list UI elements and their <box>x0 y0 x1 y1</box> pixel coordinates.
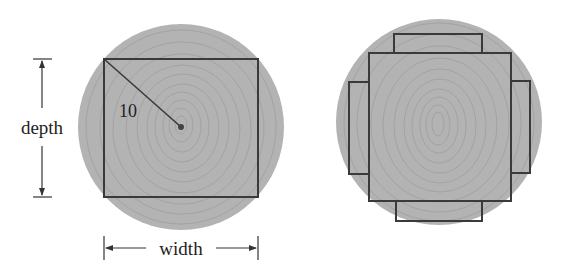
left-log: 10 <box>78 24 284 230</box>
radius-label: 10 <box>119 101 137 121</box>
center-dot <box>178 124 184 130</box>
width-label: width <box>159 238 203 259</box>
diagram-canvas: 10 depth width <box>0 0 561 274</box>
depth-label: depth <box>21 117 64 138</box>
right-log <box>336 19 542 225</box>
